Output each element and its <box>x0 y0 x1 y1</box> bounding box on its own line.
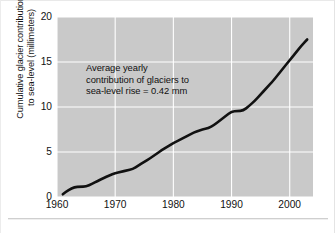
y-tick-label-20: 20 <box>8 12 52 22</box>
figure-left-rule <box>0 0 1 233</box>
x-tick-label-1980: 1980 <box>150 200 196 210</box>
annotation-line-1: Average yearly <box>86 62 189 74</box>
figure-top-rule <box>0 0 335 1</box>
chart-annotation: Average yearly contribution of glaciers … <box>86 62 189 97</box>
x-tick-label-1960: 1960 <box>34 200 80 210</box>
x-tick-label-2000: 2000 <box>267 200 313 210</box>
plot-area: Average yearly contribution of glaciers … <box>57 17 313 197</box>
chart-figure: Cumulative glacier contribution to sea-l… <box>0 0 335 233</box>
annotation-line-3: sea-level rise = 0.42 mm <box>86 85 189 97</box>
x-tick-label-1970: 1970 <box>92 200 138 210</box>
annotation-line-2: contribution of glaciers to <box>86 74 189 86</box>
y-tick-label-10: 10 <box>8 102 52 112</box>
gridlines <box>57 17 313 197</box>
y-tick-label-5: 5 <box>8 147 52 157</box>
plot-svg <box>57 17 313 197</box>
y-tick-label-15: 15 <box>8 57 52 67</box>
x-tick-label-1990: 1990 <box>209 200 255 210</box>
figure-bottom-rule-highlight <box>8 219 328 220</box>
